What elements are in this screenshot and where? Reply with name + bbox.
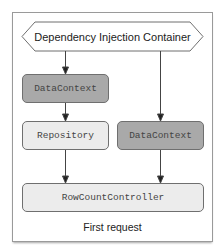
node-rowcountcontroller: RowCountController [22,183,204,212]
node-datacontext-2: DataContext [117,121,204,150]
di-container-label: Dependency Injection Container [22,22,203,51]
node-repository: Repository [22,121,109,150]
diagram-caption: First request [12,221,213,233]
node-datacontext-1: DataContext [22,74,109,103]
